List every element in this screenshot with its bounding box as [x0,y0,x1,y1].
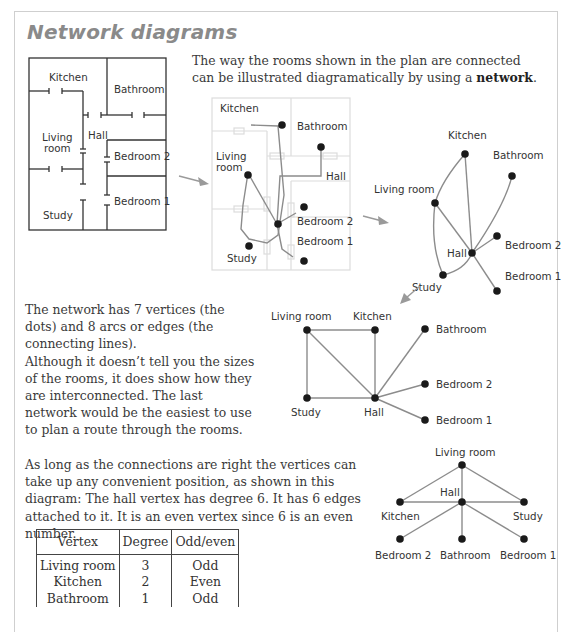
tree-label-bathroom: Bathroom [440,549,491,561]
square-label-bedroom2: Bedroom 2 [436,378,492,390]
cell-odd-even: Odd [172,554,239,574]
tree-label-kitchen: Kitchen [381,510,420,522]
intro-text: The way the rooms shown in the plan are … [192,53,521,85]
curved-label-bedroom1: Bedroom 1 [505,270,561,282]
cell-degree: 2 [119,574,172,591]
cell-vertex: Living room [37,554,120,574]
column-header-degree: Degree [119,530,172,555]
plan-label-kitchen: Kitchen [49,71,88,83]
table-header-row: Vertex Degree Odd/even [37,530,239,555]
curved-label-bathroom: Bathroom [493,149,544,161]
arrow-right-icon [178,174,212,188]
overlay-label-living-2: room [216,161,243,173]
square-label-living: Living room [271,310,332,322]
overlay-label-hall: Hall [326,170,346,182]
square-label-study: Study [291,406,321,418]
tree-label-living: Living room [435,446,496,458]
floor-plan: Kitchen Bathroom Living room Hall Bedroo… [28,57,188,237]
overlay-label-bedroom2: Bedroom 2 [297,215,353,227]
square-label-bathroom: Bathroom [436,323,487,335]
degree-table: Vertex Degree Odd/even Living room 3 Odd… [36,529,239,607]
square-label-hall: Hall [364,406,384,418]
plan-label-study: Study [43,209,73,221]
table-row: Living room 3 Odd [37,554,239,574]
square-label-bedroom1: Bedroom 1 [436,414,492,426]
network-overlay-on-plan: Kitchen Bathroom Living room Hall Bedroo… [211,97,361,277]
table-row: Kitchen 2 Even [37,574,239,591]
intro-paragraph: The way the rooms shown in the plan are … [192,52,542,86]
overlay-label-kitchen: Kitchen [220,102,259,114]
cell-degree: 1 [119,591,172,608]
curved-label-hall: Hall [447,247,467,259]
tree-label-hall: Hall [440,486,460,498]
table-row: Bathroom 1 Odd [37,591,239,608]
curved-label-bedroom2: Bedroom 2 [505,239,561,251]
curved-label-living: Living room [374,183,435,195]
overlay-label-study: Study [227,252,257,264]
cell-vertex: Kitchen [37,574,120,591]
plan-label-bedroom1: Bedroom 1 [114,195,170,207]
network-square: Living room Kitchen Bathroom Bedroom 2 S… [265,300,485,430]
cell-degree: 3 [119,554,172,574]
description-paragraph: The network has 7 vertices (the dots) an… [25,301,255,439]
network-tree: Living room Hall Kitchen Study Bedroom 2… [370,445,560,585]
column-header-vertex: Vertex [37,530,120,555]
plan-label-bedroom2: Bedroom 2 [114,150,170,162]
overlay-label-bedroom1: Bedroom 1 [297,235,353,247]
tree-label-bedroom1: Bedroom 1 [500,549,556,561]
network-term: network [476,70,533,85]
curved-label-kitchen: Kitchen [448,129,487,141]
plan-label-living-2: room [44,142,71,154]
square-label-kitchen: Kitchen [353,310,392,322]
plan-label-bathroom: Bathroom [114,83,165,95]
column-header-odd-even: Odd/even [172,530,239,555]
overlay-label-bathroom: Bathroom [297,120,348,132]
plan-label-hall: Hall [88,129,108,141]
intro-text-end: . [533,70,537,85]
cell-vertex: Bathroom [37,591,120,608]
cell-odd-even: Odd [172,591,239,608]
tree-label-bedroom2: Bedroom 2 [375,549,431,561]
cell-odd-even: Even [172,574,239,591]
page-title: Network diagrams [27,20,238,44]
tree-label-study: Study [513,510,543,522]
